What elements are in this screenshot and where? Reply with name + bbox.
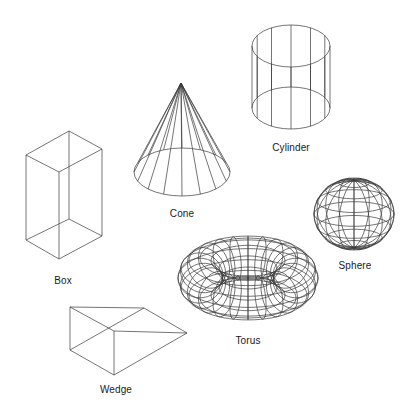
sphere-label: Sphere [339,260,372,271]
wireframe-primitives-diagram [0,0,414,413]
wedge-label: Wedge [100,384,132,395]
cone-wireframe [134,83,230,196]
cylinder-label: Cylinder [272,142,309,153]
box-label: Box [54,275,72,286]
torus-wireframe [178,236,318,320]
box-wireframe [26,131,102,259]
wedge-wireframe [70,307,187,375]
cylinder-wireframe [252,25,330,129]
sphere-wireframe [314,178,394,250]
torus-label: Torus [236,335,261,346]
cone-label: Cone [170,208,194,219]
